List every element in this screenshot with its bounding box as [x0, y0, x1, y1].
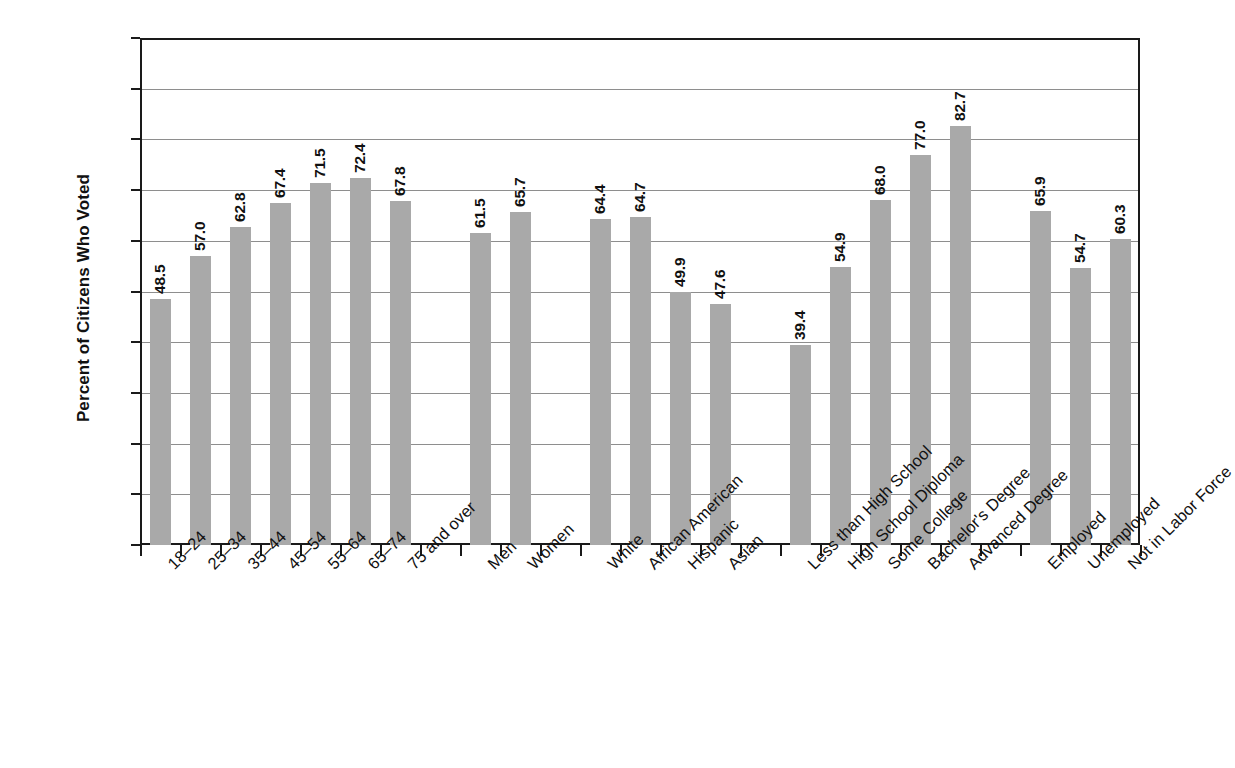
y-tick-mark	[131, 189, 140, 191]
gridline	[142, 38, 1138, 40]
x-tick-mark	[1020, 545, 1022, 556]
gridline	[142, 139, 1138, 140]
gridline	[142, 190, 1138, 191]
gridline	[142, 89, 1138, 90]
plot-area	[140, 38, 1140, 545]
gridline	[142, 241, 1138, 242]
y-tick-mark	[131, 341, 140, 343]
y-tick-mark	[131, 88, 140, 90]
gridline	[142, 444, 1138, 445]
y-tick-mark	[131, 493, 140, 495]
y-tick-mark	[131, 240, 140, 242]
y-tick-mark	[131, 37, 140, 39]
y-tick-mark	[131, 443, 140, 445]
x-tick-mark	[780, 545, 782, 556]
gridline	[142, 292, 1138, 293]
y-tick-mark	[131, 544, 140, 546]
y-tick-mark	[131, 392, 140, 394]
y-tick-mark	[131, 291, 140, 293]
x-tick-mark	[460, 545, 462, 556]
y-axis-title: Percent of Citizens Who Voted	[74, 88, 94, 508]
y-tick-mark	[131, 138, 140, 140]
gridline	[142, 393, 1138, 394]
x-tick-mark	[140, 545, 142, 556]
gridline	[142, 342, 1138, 343]
x-tick-mark	[580, 545, 582, 556]
